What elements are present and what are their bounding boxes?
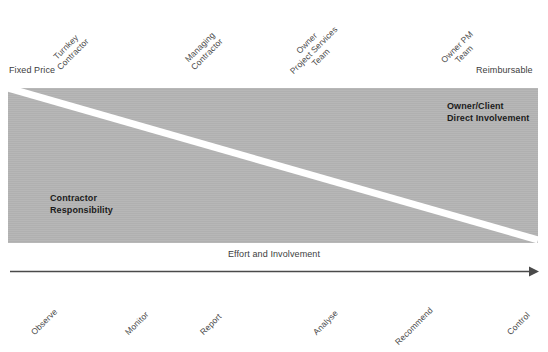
bottom-axis-label-analyse: Analyse <box>311 308 340 337</box>
owner-client-involvement-line: Owner/Client <box>447 100 529 112</box>
reimbursable-label: Reimbursable <box>476 65 533 75</box>
bottom-axis-label-monitor: Monitor <box>123 309 151 337</box>
effort-arrow <box>0 258 548 286</box>
contractor-responsibility-label: Contractor Responsibility <box>50 192 113 216</box>
bottom-axis-label-observe: Observe <box>29 307 59 337</box>
fixed-price-label: Fixed Price <box>9 65 55 75</box>
top-axis-label-owner-project-services-team: Owner Project Services Team <box>281 17 347 83</box>
diagram-canvas: Turnkey Contractor Managing Contractor O… <box>0 0 548 352</box>
contractor-responsibility-line: Contractor <box>50 192 113 204</box>
responsibility-band: Contractor Responsibility Owner/Client D… <box>8 88 538 243</box>
bottom-axis-label-recommend: Recommend <box>393 305 435 347</box>
bottom-axis-label-report: Report <box>198 311 224 337</box>
owner-client-involvement-label: Owner/Client Direct Involvement <box>447 100 529 124</box>
contractor-responsibility-line: Responsibility <box>50 204 113 216</box>
top-axis-label-managing-contractor: Managing Contractor <box>182 29 225 72</box>
bottom-axis-label-control: Control <box>505 310 532 337</box>
owner-client-involvement-line: Direct Involvement <box>447 112 529 124</box>
